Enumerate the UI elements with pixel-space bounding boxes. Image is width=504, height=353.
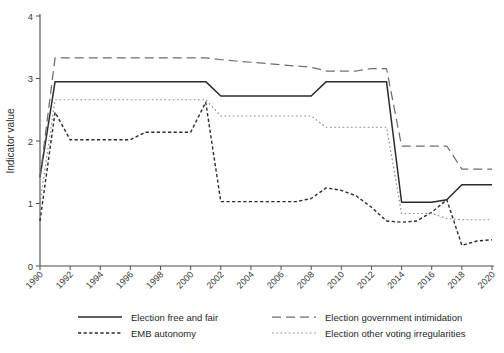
x-tick-label: 2000 [174, 269, 195, 290]
series-line-1 [40, 82, 492, 203]
legend-label-4: Election other voting irregularities [325, 328, 466, 339]
x-tick-label: 1998 [144, 269, 165, 290]
x-tick-label: 2002 [204, 269, 225, 290]
series-layer [40, 58, 492, 246]
x-tick-label: 2018 [446, 269, 467, 290]
x-tick-label: 2012 [355, 269, 376, 290]
chart-figure: 01234 1990199219941996199820002002200420… [0, 0, 504, 353]
y-axis-title: Indicator value [5, 108, 16, 173]
x-tick-label: 1990 [24, 269, 45, 290]
x-tick-label: 2004 [235, 269, 256, 290]
y-tick-label: 0 [28, 261, 33, 272]
y-tick-label: 3 [28, 73, 33, 84]
legend-label-3: EMB autonomy [131, 328, 196, 339]
x-tick-label: 2006 [265, 269, 286, 290]
series-line-3 [40, 102, 492, 245]
y-tick-label: 1 [28, 198, 33, 209]
legend-label-2: Election government intimidation [325, 312, 462, 323]
x-tick-label: 2016 [415, 269, 436, 290]
x-tick-label: 1992 [54, 269, 75, 290]
x-axis: 1990199219941996199820002002200420062008… [24, 266, 497, 291]
y-tick-label: 2 [28, 136, 33, 147]
series-line-2 [40, 58, 492, 177]
x-tick-label: 2020 [476, 269, 497, 290]
y-axis: 01234 [28, 11, 40, 272]
x-tick-label: 2010 [325, 269, 346, 290]
chart-legend: Election free and fairElection governmen… [78, 312, 466, 339]
legend-label-1: Election free and fair [131, 312, 218, 323]
x-tick-label: 2008 [295, 269, 316, 290]
x-tick-label: 2014 [385, 269, 406, 290]
x-tick-label: 1994 [84, 269, 105, 290]
line-chart-canvas: 01234 1990199219941996199820002002200420… [0, 0, 504, 353]
y-tick-label: 4 [28, 11, 33, 22]
x-tick-label: 1996 [114, 269, 135, 290]
